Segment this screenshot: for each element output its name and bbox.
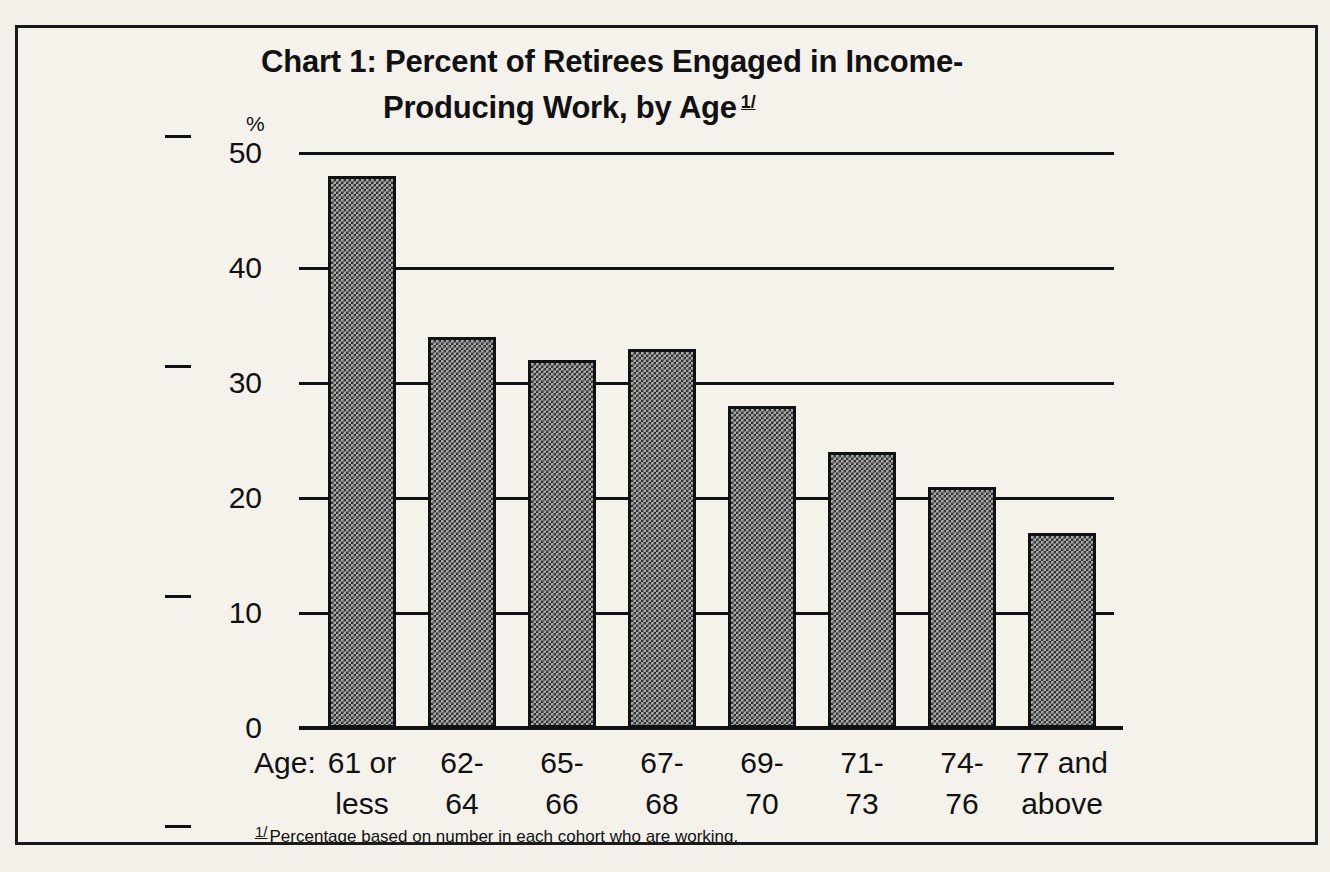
chart-title-line-1: Chart 1: Percent of Retirees Engaged in …	[261, 42, 1161, 82]
y-tick-mark-50	[165, 135, 191, 138]
y-tick-label-20: 20	[192, 481, 262, 515]
chart-frame: Chart 1: Percent of Retirees Engaged in …	[15, 25, 1318, 845]
footnote: 1/Percentage based on number in each coh…	[255, 823, 738, 847]
x-tick-label-line: above	[1002, 783, 1122, 824]
footnote-text: Percentage based on number in each cohor…	[270, 827, 739, 846]
bar	[1028, 533, 1096, 729]
y-tick-mark-40	[165, 365, 191, 368]
y-tick-mark-30	[165, 595, 191, 598]
bar	[728, 406, 796, 728]
chart-title-line-2: Producing Work, by Age1/	[261, 82, 1161, 128]
bar	[328, 176, 396, 728]
y-tick-label-0: 0	[192, 711, 262, 745]
y-axis-unit-label: %	[246, 112, 265, 136]
title-footnote-marker: 1/	[737, 92, 756, 112]
y-tick-label-10: 10	[192, 596, 262, 630]
x-tick-label-line: 77 and	[1002, 742, 1122, 783]
y-tick-label-40: 40	[192, 251, 262, 285]
y-tick-label-50: 50	[192, 136, 262, 170]
bar	[428, 337, 496, 728]
footnote-marker: 1/	[255, 823, 270, 840]
bar	[828, 452, 896, 728]
bar	[928, 487, 996, 729]
x-axis-line	[299, 726, 1123, 730]
chart-title-line-2-text: Producing Work, by Age	[383, 90, 737, 125]
y-tick-label-30: 30	[192, 366, 262, 400]
y-axis-labels: 01020304050	[192, 153, 262, 728]
chart-title: Chart 1: Percent of Retirees Engaged in …	[261, 42, 1161, 128]
bar	[628, 349, 696, 729]
x-tick-label: 77 andabove	[1002, 742, 1122, 824]
bar-series	[299, 153, 1123, 728]
bar	[528, 360, 596, 728]
x-axis-labels: 61 orless62-6465-6667-6869-7071-7374-767…	[299, 742, 1123, 832]
y-tick-mark-20	[165, 825, 191, 828]
page-canvas: Chart 1: Percent of Retirees Engaged in …	[0, 0, 1330, 872]
